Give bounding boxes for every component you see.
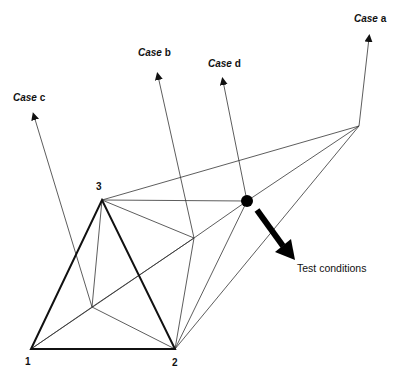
vertex-3-label: 3	[96, 181, 102, 192]
mesh-edge	[194, 201, 247, 238]
mesh-edge	[92, 307, 175, 349]
case-d-label: Case d	[208, 58, 241, 69]
mesh-edge	[31, 238, 194, 349]
test-point	[241, 195, 253, 207]
mesh-edge	[175, 126, 359, 349]
vertex-1-label: 1	[25, 356, 31, 367]
case-c-label: Case c	[13, 92, 45, 103]
test-conditions-arrow	[257, 210, 295, 260]
mesh-edge	[102, 200, 247, 201]
case-d-arrow	[223, 81, 247, 201]
mesh-edge	[102, 126, 359, 200]
mesh-edge	[247, 126, 359, 201]
case-a-label: Case a	[354, 13, 386, 24]
test-conditions-label: Test conditions	[297, 262, 366, 274]
main-triangle	[31, 200, 175, 349]
vertex-2-label: 2	[172, 357, 178, 368]
case-c-arrow	[34, 116, 92, 307]
mesh-edge	[175, 238, 194, 349]
case-a-arrow	[359, 38, 369, 126]
triangulation-diagram	[0, 0, 399, 384]
case-b-label: Case b	[138, 47, 171, 58]
mesh-edge	[102, 200, 194, 238]
case-b-arrow	[158, 76, 194, 238]
